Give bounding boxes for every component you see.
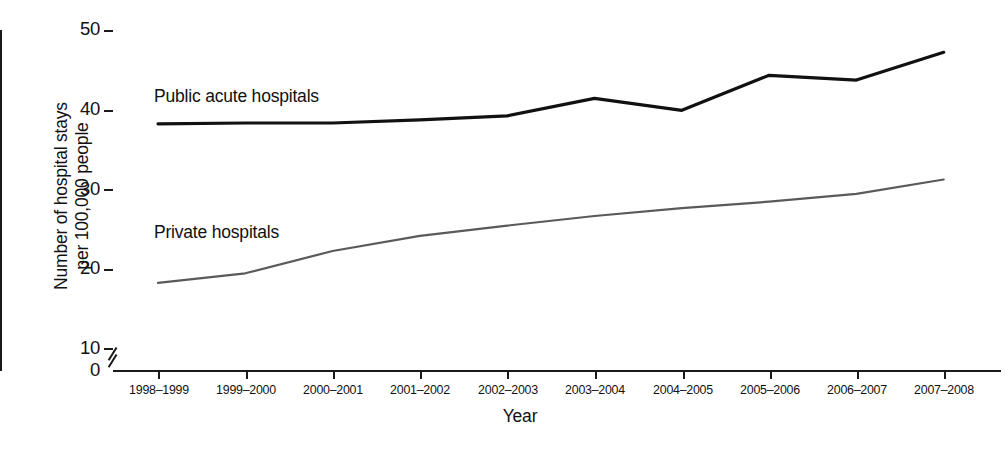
caption-strip-cropped [0,448,1005,455]
series-label-private: Private hospitals [154,222,279,243]
series-label-public: Public acute hospitals [154,86,319,107]
chart-figure: Number of hospital stays per 100,000 peo… [0,0,1005,455]
chart-plot-area [0,0,1005,455]
